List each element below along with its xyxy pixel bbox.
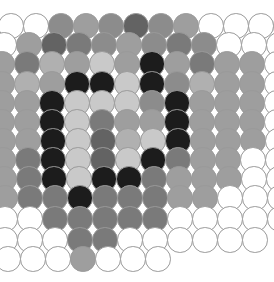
particle-disc — [192, 227, 218, 253]
particle-disc — [267, 206, 274, 232]
particle-disc — [20, 246, 46, 272]
particle-disc — [45, 246, 71, 272]
particle-disc — [70, 246, 96, 272]
particle-disc — [217, 227, 243, 253]
particle-disc — [167, 227, 193, 253]
particle-disc — [145, 246, 171, 272]
particle-disc — [0, 246, 21, 272]
particle-disc — [120, 246, 146, 272]
colloidal-particle-lattice — [0, 0, 274, 282]
micrograph-canvas — [0, 0, 274, 282]
particle-disc — [95, 246, 121, 272]
particle-disc — [242, 227, 268, 253]
